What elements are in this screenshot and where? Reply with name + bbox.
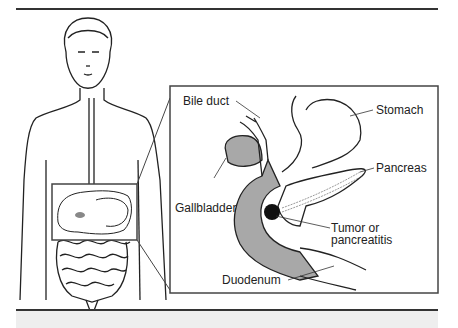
body-inset-box (52, 184, 137, 240)
tumor-shape (264, 204, 280, 220)
zoom-connector-lines (137, 98, 170, 290)
head-outline (64, 18, 111, 88)
intestines-outline (57, 242, 128, 302)
gallbladder-shape (225, 136, 262, 167)
intestines (58, 240, 130, 285)
label-bile-duct: Bile duct (183, 95, 229, 108)
label-duodenum: Duodenum (222, 274, 281, 287)
small-gallbladder (75, 212, 85, 218)
label-pancreas: Pancreas (376, 162, 427, 175)
mouth (84, 74, 92, 75)
bottom-band (16, 309, 438, 328)
human-figure (20, 18, 166, 316)
label-gallbladder: Gallbladder (175, 202, 236, 215)
hair-line (68, 31, 108, 39)
label-stomach: Stomach (376, 104, 423, 117)
esophagus (89, 98, 94, 184)
label-tumor-line2: pancreatitis (331, 234, 392, 247)
